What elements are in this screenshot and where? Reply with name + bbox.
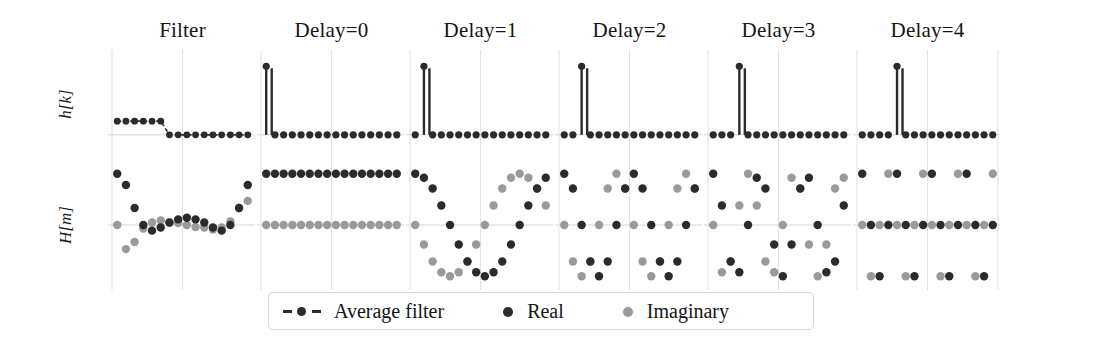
legend-label-real: Real xyxy=(527,301,564,321)
legend-item-imaginary: Imaginary xyxy=(622,301,729,321)
average-filter-marker-icon xyxy=(283,305,323,317)
legend-item-average-filter: Average filter xyxy=(283,301,444,321)
legend-item-real: Real xyxy=(502,301,564,321)
real-marker-icon xyxy=(502,304,516,318)
legend-label-imaginary: Imaginary xyxy=(647,301,729,321)
legend: Average filter Real Imaginary xyxy=(268,292,814,330)
legend-label-average-filter: Average filter xyxy=(334,301,444,321)
imaginary-marker-icon xyxy=(622,304,636,318)
dsp-figure: h[k] H[m] Filter Delay=0 Delay=1 Delay=2… xyxy=(0,0,1096,360)
